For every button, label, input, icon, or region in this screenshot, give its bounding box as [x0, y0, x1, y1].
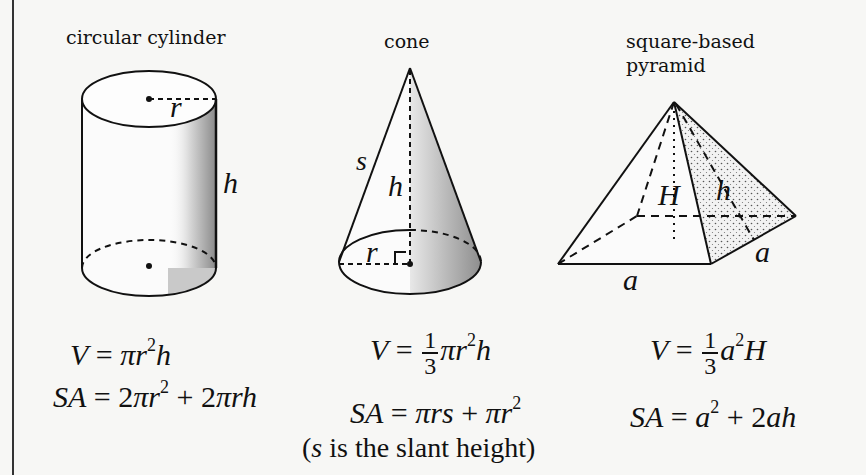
- pyramid-surface-area-formula: SA = a2 + 2ah: [630, 398, 796, 432]
- pyramid-volume-formula: V = 13a2H: [650, 328, 766, 378]
- cylinder-volume-formula: V = πr2h: [70, 336, 171, 370]
- pyramid-side-bottom-label: a: [623, 263, 638, 296]
- cylinder-surface-area-formula: SA = 2πr2 + 2πrh: [53, 378, 257, 412]
- cone-radius-label: r: [366, 235, 378, 268]
- cylinder-height-label: h: [223, 166, 238, 199]
- slant-height-footnote: (s is the slant height): [302, 432, 535, 464]
- pyramid-height-label: H: [657, 178, 682, 211]
- cone-volume-formula: V = 13πr2h: [370, 328, 491, 378]
- one-third-fraction: 13: [702, 328, 718, 378]
- cone-surface-area-formula: SA = πrs + πr2: [350, 394, 521, 428]
- pyramid-slant-label: h: [716, 173, 731, 206]
- pyramid-side-right-label: a: [755, 235, 770, 268]
- cone-height-label: h: [388, 169, 403, 202]
- cylinder-drawing: [82, 71, 216, 296]
- cone-drawing: [339, 68, 481, 294]
- cone-slant-label: s: [356, 145, 367, 176]
- cylinder-radius-label: r: [170, 90, 182, 123]
- one-third-fraction: 13: [422, 328, 438, 378]
